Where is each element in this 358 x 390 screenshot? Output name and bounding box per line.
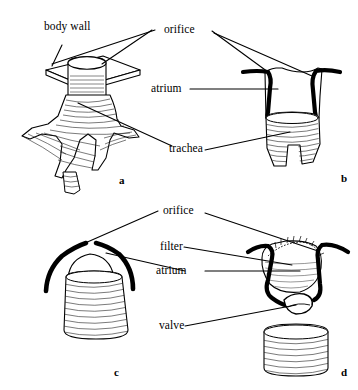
leader-orifice-bottom-left [76,211,158,247]
label-orifice-top: orifice [164,24,195,36]
trachea-rim-b [266,113,318,124]
label-atrium-top: atrium [151,83,182,95]
label-body-wall: body wall [44,21,91,33]
leader-valve [185,305,296,326]
panel-letter-a: a [119,174,125,186]
panel-b-drawing [243,68,340,166]
trachea-rim-c [66,271,122,283]
trachea-branch-a [63,172,80,194]
panel-d-drawing [248,236,348,376]
leader-orifice-top-right [212,31,268,72]
orifice-lip-right-d [314,245,348,300]
panel-letter-c: c [114,366,119,378]
panel-letter-b: b [341,172,347,184]
trachea-rim-d [264,325,328,339]
label-filter: filter [160,241,183,253]
label-orifice-bottom: orifice [163,205,194,217]
panel-letter-d: d [341,366,347,378]
label-atrium-bottom: atrium [156,265,187,277]
label-valve: valve [159,320,184,332]
label-trachea: trachea [169,143,203,155]
figure-drawing [0,0,358,390]
figure-root: body wall orifice atrium trachea orifice… [0,0,358,390]
leader-orifice-top-left-b [102,30,152,64]
panel-c-drawing [46,243,133,339]
orifice-opening-a [68,57,106,69]
